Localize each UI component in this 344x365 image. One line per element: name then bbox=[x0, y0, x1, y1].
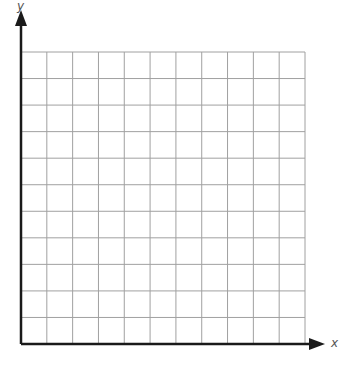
coordinate-grid bbox=[0, 0, 344, 365]
x-axis-label: x bbox=[331, 336, 338, 350]
grid-lines bbox=[21, 52, 305, 344]
y-axis-label: y bbox=[17, 0, 24, 13]
x-axis-arrow-icon bbox=[309, 338, 325, 350]
